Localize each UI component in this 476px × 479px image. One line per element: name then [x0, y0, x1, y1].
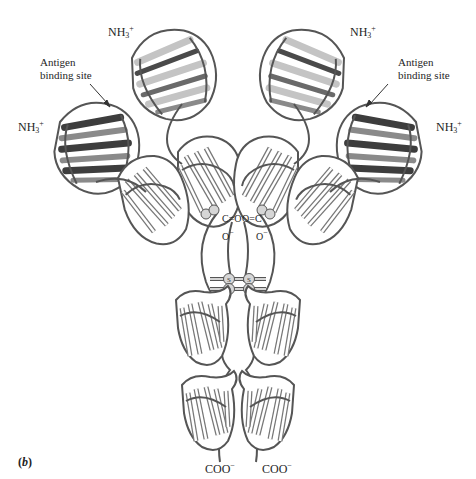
left-ch3-domain: [182, 371, 237, 450]
nh3-label-right: NH3+: [436, 117, 462, 137]
carboxyl-label-right: O=C: [242, 212, 262, 225]
right-ch3-domain: [239, 371, 294, 450]
nh3-label-left: NH3+: [18, 117, 44, 137]
nh3-label-top-right: NH3+: [350, 22, 376, 42]
antigen-binding-site-label-right: Antigen binding site: [398, 56, 450, 82]
panel-label: (b): [18, 455, 32, 470]
svg-text:S: S: [247, 276, 251, 284]
carboxyl-o-right: O−: [256, 226, 268, 243]
coo-label-left: COO−: [205, 459, 235, 476]
carboxyl-o-left: O−: [222, 226, 234, 243]
carboxyl-label-left: C=O: [222, 212, 242, 225]
coo-label-right: COO−: [262, 459, 292, 476]
right-ch2-domain: [245, 286, 300, 365]
antigen-binding-site-label-left: Antigen binding site: [40, 56, 92, 82]
left-ch2-domain: [176, 286, 231, 365]
svg-text:S: S: [227, 276, 231, 284]
right-vh-domain: [254, 24, 350, 126]
nh3-label-top-left: NH3+: [108, 22, 134, 42]
left-vh-domain: [126, 24, 222, 126]
